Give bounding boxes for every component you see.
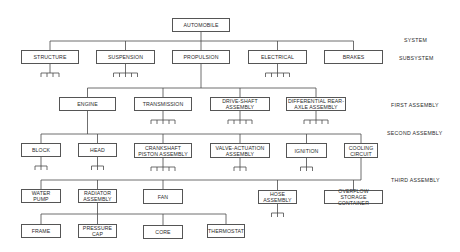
- node-valve-actuation: VALVE-ACTUATION ASSEMBLY: [210, 143, 270, 158]
- node-drive-shaft: DRIVE-SHAFT ASSEMBLY: [210, 97, 270, 111]
- node-differential: DIFFERENTIAL REAR- AXLE ASSEMBLY: [286, 97, 346, 111]
- node-brakes: BRAKES: [324, 50, 383, 64]
- node-hose-assembly: HOSE ASSEMBLY: [258, 190, 297, 204]
- node-electrical: ELECTRICAL: [248, 50, 307, 64]
- node-engine: ENGINE: [59, 97, 116, 111]
- node-ignition: IGNITION: [286, 143, 327, 158]
- node-block: BLOCK: [21, 143, 61, 157]
- node-overflow: OVERFLOW STORAGE CONTAINER: [324, 190, 383, 204]
- node-propulsion: PROPULSION: [172, 50, 230, 64]
- level-label-system: SYSTEM: [404, 37, 427, 43]
- node-thermostat: THERMOSTAT: [207, 224, 245, 238]
- node-automobile: AUTOMOBILE: [172, 18, 230, 32]
- node-pressure-cap: PRESSURE CAP: [78, 224, 117, 238]
- level-label-first-assembly: FIRST ASSEMBLY: [391, 102, 439, 108]
- node-structure: STRUCTURE: [21, 50, 79, 64]
- node-fan: FAN: [143, 189, 183, 204]
- node-cooling-circuit: COOLING CIRCUIT: [344, 143, 378, 158]
- node-transmission: TRANSMISSION: [134, 97, 192, 111]
- level-label-third-assembly: THIRD ASSEMBLY: [391, 177, 440, 183]
- connector-lines: [0, 0, 460, 252]
- node-core: CORE: [143, 225, 183, 239]
- level-label-subsystem: SUBSYSTEM: [399, 55, 434, 61]
- node-water-pump: WATER PUMP: [21, 189, 61, 203]
- node-frame: FRAME: [21, 224, 61, 238]
- level-label-second-assembly: SECOND ASSEMBLY: [387, 130, 442, 136]
- node-suspension: SUSPENSION: [96, 50, 155, 64]
- node-head: HEAD: [78, 143, 117, 157]
- node-crankshaft: CRANKSHAFT PISTON ASSEMBLY: [134, 143, 192, 158]
- hierarchy-diagram: AUTOMOBILESTRUCTURESUSPENSIONPROPULSIONE…: [0, 0, 460, 252]
- node-radiator: RADIATOR ASSEMBLY: [78, 189, 117, 203]
